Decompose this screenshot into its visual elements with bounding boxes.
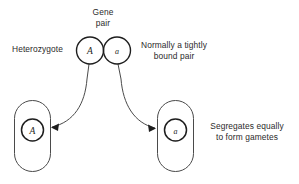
bound-pair-label: Normally a tightly bound pair [131, 40, 217, 62]
right-gamete-allele: a [174, 127, 178, 136]
heterozygote-label: Heterozygote [12, 44, 76, 55]
genetics-segregation-diagram: A a A a Gene pair Heterozygote Normally … [0, 0, 299, 184]
arrow-to-left-gamete-path [52, 79, 87, 127]
segregates-label: Segregates equally to form gametes [198, 121, 296, 143]
left-gamete-cell [15, 101, 51, 172]
arrow-to-right-gamete-head [148, 125, 156, 133]
gene-allele-right: a [115, 47, 119, 56]
left-gamete-allele: A [29, 126, 36, 136]
diagram-canvas: A a A a [0, 0, 299, 184]
arrow-to-right-gamete-path [121, 79, 155, 128]
stem-right [118, 64, 121, 79]
arrow-to-left-gamete-head [51, 124, 59, 132]
right-gamete-cell [158, 101, 194, 172]
gene-pair-label: Gene pair [73, 7, 133, 29]
gene-allele-left: A [86, 46, 93, 56]
stem-left [87, 64, 89, 79]
